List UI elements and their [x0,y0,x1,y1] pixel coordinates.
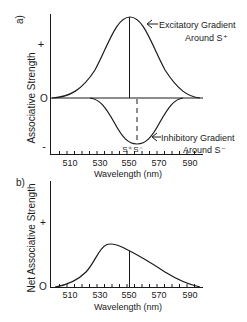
xtick-570: 570 [151,158,166,168]
panel-b-ylabel: Net Associative Strength [26,184,37,293]
excitatory-annotation: Excitatory Gradient Around S⁺ [147,20,236,43]
panel-b-x-ticks [60,284,195,287]
panel-a-ylabel: Associative Strength [26,52,37,143]
figure: a) Associative Strength + O - [0,0,247,322]
svg-text:Excitatory Gradient: Excitatory Gradient [159,20,236,30]
xtick-550: 550 [121,290,136,300]
xtick-550: 550 [121,158,136,168]
panel-a-label: a) [14,15,25,24]
panel-b-x-tick-labels: 510 530 550 570 590 [62,290,197,300]
panel-a-ytick-minus: - [42,140,46,152]
panel-b-ytick-zero: O [39,281,47,292]
svg-text:Around S⁻: Around S⁻ [183,145,226,155]
panel-b-label: b) [16,177,25,188]
xtick-530: 530 [92,158,107,168]
panel-a-x-tick-labels: 510 530 550 570 590 [62,158,197,168]
xtick-590: 590 [182,290,197,300]
panel-a: a) Associative Strength + O - [14,14,236,179]
panel-b-xlabel: Wavelength (nm) [94,302,162,312]
sminus-marker: S⁻ [133,145,142,154]
xtick-570: 570 [151,290,166,300]
panel-a-ytick-plus: + [38,38,44,50]
svg-text:Around S⁺: Around S⁺ [185,33,228,43]
arrow-left-icon [147,20,158,28]
svg-text:Inhibitory Gradient: Inhibitory Gradient [161,133,235,143]
splus-marker: S⁺ [122,145,131,154]
arrow-left-icon [152,133,161,141]
net-strength-curve [55,244,200,287]
panel-b: b) Net Associative Strength + O [16,177,203,312]
panel-a-xlabel: Wavelength (nm) [94,169,162,179]
xtick-510: 510 [62,290,77,300]
xtick-590: 590 [182,158,197,168]
xtick-530: 530 [92,290,107,300]
panel-a-ytick-zero: O [40,93,48,104]
panel-b-ytick-plus: + [40,217,46,228]
xtick-510: 510 [62,158,77,168]
